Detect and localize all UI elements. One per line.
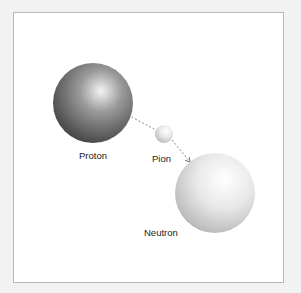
neutron-sphere — [175, 153, 255, 233]
exchange-line-proton-pion — [128, 115, 156, 130]
proton-label: Proton — [79, 150, 107, 161]
pion-label: Pion — [152, 153, 171, 164]
pion-sphere — [155, 125, 173, 143]
exchange-arrow-pion-neutron — [172, 140, 190, 162]
particle-diagram — [0, 0, 301, 293]
neutron-label: Neutron — [144, 227, 178, 238]
proton-sphere — [53, 63, 133, 143]
